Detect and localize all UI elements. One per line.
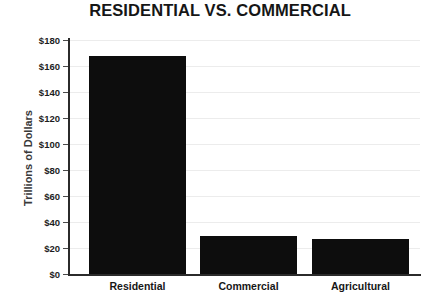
x-axis-line — [68, 274, 421, 276]
y-axis-tick-label: $160 — [39, 61, 60, 72]
x-axis-label-commercial: Commercial — [200, 280, 297, 292]
y-axis-tick-label: $100 — [39, 139, 60, 150]
y-axis-tick-label: $40 — [44, 217, 60, 228]
plot-area: $0$20$40$60$80$100$120$140$160$180 — [68, 40, 420, 274]
bar-agricultural[interactable] — [312, 239, 409, 274]
bar-residential[interactable] — [89, 56, 186, 274]
y-axis-tick-label: $0 — [49, 269, 60, 280]
bar-chart: RESIDENTIAL VS. COMMERCIAL Trillions of … — [0, 0, 433, 306]
gridline — [68, 40, 420, 41]
y-axis-tick-label: $20 — [44, 243, 60, 254]
y-axis-tick-label: $180 — [39, 35, 60, 46]
chart-title: RESIDENTIAL VS. COMMERCIAL — [60, 1, 380, 20]
y-axis-label: Trillions of Dollars — [22, 68, 34, 248]
y-axis-line — [68, 38, 70, 275]
y-axis-tick-label: $80 — [44, 165, 60, 176]
y-axis-tick-label: $140 — [39, 87, 60, 98]
y-axis-tick-label: $120 — [39, 113, 60, 124]
x-axis-label-residential: Residential — [89, 280, 186, 292]
bar-commercial[interactable] — [200, 236, 297, 274]
x-axis-label-agricultural: Agricultural — [312, 280, 409, 292]
y-axis-tick-label: $60 — [44, 191, 60, 202]
